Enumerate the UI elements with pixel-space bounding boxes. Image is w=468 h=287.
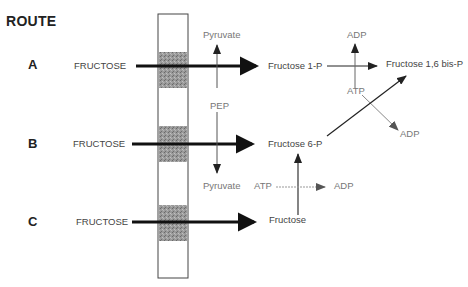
route-a-substrate: FRUCTOSE [74,60,126,71]
pathway-diagram [0,0,468,287]
adp-bottom-label: ADP [334,180,354,191]
fructose-1p-label: Fructose 1-P [268,60,322,71]
fructose-6p-label: Fructose 6-P [268,138,322,149]
f6p-to-fbp-arrow [327,76,406,136]
fructose-bisphosphate-label: Fructose 1,6 bis-P [386,58,463,69]
route-b-substrate: FRUCTOSE [73,138,125,149]
fructose-label: Fructose [269,214,306,225]
route-c-substrate: FRUCTOSE [76,216,128,227]
atp-bottom-label: ATP [254,180,272,191]
pep-label: PEP [210,100,229,111]
pyruvate-bottom-label: Pyruvate [203,180,241,191]
adp-diagonal-label: ADP [400,128,420,139]
membrane-strip [158,14,188,278]
atp-mid-label: ATP [347,85,365,96]
pyruvate-top-label: Pyruvate [203,29,241,40]
adp-top-label: ADP [347,29,367,40]
atp-to-adp-diagonal-arrow [362,95,398,130]
